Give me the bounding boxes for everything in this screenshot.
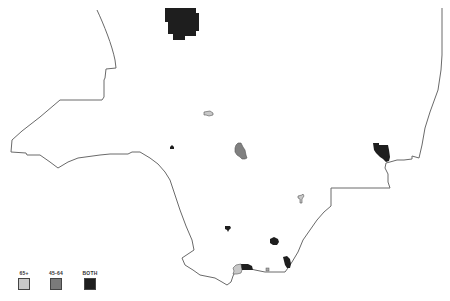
legend-item-65plus: 65+	[12, 270, 36, 290]
region-south-coast-dark	[241, 264, 253, 270]
legend-swatch	[18, 278, 30, 290]
region-south-coast-light	[233, 264, 242, 274]
region-east-coast	[373, 143, 390, 162]
legend-label: BOTH	[78, 270, 102, 276]
region-center-mid	[235, 143, 247, 159]
region-center-small-light	[204, 111, 213, 116]
map	[0, 0, 450, 301]
region-south-dot-2	[270, 237, 279, 245]
legend-label: 45-64	[44, 270, 68, 276]
legend-item-45-64: 45-64	[44, 270, 68, 290]
region-southeast-small-light	[298, 194, 304, 203]
region-center-left-dot	[170, 145, 174, 149]
region-north-top	[165, 8, 199, 40]
region-junction-marker	[266, 268, 269, 271]
legend-swatch	[50, 278, 62, 290]
region-south-dot-1	[225, 226, 231, 232]
legend-swatch	[84, 278, 96, 290]
legend-item-both: BOTH	[78, 270, 102, 290]
legend: 65+ 45-64 BOTH	[12, 270, 112, 298]
region-south-coast-east	[283, 256, 291, 268]
legend-label: 65+	[12, 270, 36, 276]
